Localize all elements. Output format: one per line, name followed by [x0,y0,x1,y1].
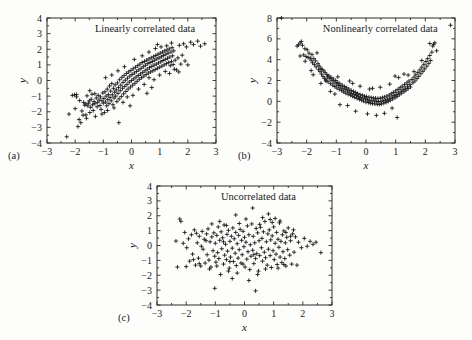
y-tick-label: 2 [267,75,272,86]
y-tick-label: 0 [147,240,152,251]
y-tick-label: 4 [37,14,42,24]
x-tick-label: −1 [98,146,109,157]
panel-c-tag: (c) [118,312,130,323]
x-tick-label: 3 [214,146,219,157]
x-tick-label: 0 [242,308,247,319]
plot-title: Nonlinearly correlated data [323,23,438,34]
y-tick-label: −4 [141,300,152,311]
y-tick-label: 8 [267,14,272,24]
x-tick-label: −3 [272,146,283,157]
x-tick-label: −3 [152,308,163,319]
x-tick-label: −2 [70,146,81,157]
data-points [174,206,323,293]
x-tick-label: 2 [300,308,305,319]
y-tick-label: −1 [31,91,42,102]
panel-b-tag: (b) [238,150,251,161]
y-tick-label: −1 [141,255,152,266]
panel-a: −3−2−10123−4−3−2−101234Linearly correlat… [17,14,220,173]
y-tick-label: 2 [147,210,152,221]
correlation-scatter-figure: −3−2−10123−4−3−2−101234Linearly correlat… [0,0,472,340]
y-tick-label: 0 [267,96,272,107]
y-tick-label: 3 [147,195,152,206]
x-tick-label: 0 [129,146,134,157]
x-tick-label: −1 [331,146,342,157]
scatter-plot: −3−2−10123−4−3−2−101234Linearly correlat… [17,14,220,173]
y-axis-label: y [17,78,28,84]
plot-title: Linearly correlated data [95,23,196,34]
x-tick-label: 1 [271,308,276,319]
plot-title: Uncorrelated data [221,191,296,202]
y-tick-label: −2 [31,106,42,117]
y-axis-label: y [247,78,258,84]
x-tick-label: −2 [181,308,192,319]
y-tick-label: −3 [141,285,152,296]
y-tick-label: 4 [147,182,152,192]
scatter-plot: −3−2−10123−4−3−2−101234Uncorrelated data… [127,182,336,335]
x-tick-label: 2 [185,146,190,157]
x-tick-label: 1 [393,146,398,157]
y-tick-label: 1 [37,59,42,70]
x-axis-label: x [363,159,369,171]
y-axis-label: y [127,243,138,249]
y-tick-label: 1 [147,225,152,236]
y-tick-label: −3 [31,122,42,133]
x-tick-label: −2 [301,146,312,157]
y-tick-label: −2 [261,117,272,128]
y-tick-label: −2 [141,270,152,281]
x-tick-label: −1 [210,308,221,319]
plot-frame [157,186,332,305]
x-axis-label: x [128,159,134,171]
panel-c: −3−2−10123−4−3−2−101234Uncorrelated data… [127,182,336,335]
x-tick-label: 3 [453,146,458,157]
y-tick-label: 6 [267,33,272,44]
panel-b: −3−2−10123−4−202468Nonlinearly correlate… [247,14,459,173]
panel-a-tag: (a) [8,150,20,161]
y-tick-label: 4 [267,54,272,65]
x-tick-label: 0 [364,146,369,157]
data-points [65,39,207,139]
y-tick-label: 0 [37,75,42,86]
y-tick-label: 3 [37,28,42,39]
y-tick-label: −4 [31,138,42,149]
x-tick-label: 2 [423,146,428,157]
x-tick-label: 3 [330,308,335,319]
y-tick-label: −4 [261,138,272,149]
x-axis-label: x [241,321,247,333]
x-tick-label: 1 [157,146,162,157]
plot-frame [277,18,455,143]
x-tick-label: −3 [42,146,53,157]
scatter-plot: −3−2−10123−4−202468Nonlinearly correlate… [247,14,459,173]
y-tick-label: 2 [37,44,42,55]
